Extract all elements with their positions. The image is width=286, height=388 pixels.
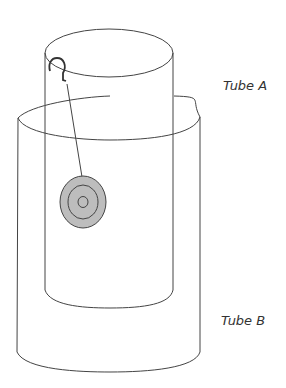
string	[67, 84, 82, 177]
tube-diagram: Tube A Tube B	[0, 0, 286, 388]
tube-b-label: Tube B	[221, 313, 265, 328]
tube-b-left-side	[17, 118, 18, 352]
tube-b-bottom	[17, 352, 200, 372]
tube-a-bottom	[45, 290, 173, 308]
tube-a-label: Tube A	[223, 78, 267, 93]
disk-outer	[60, 176, 106, 228]
